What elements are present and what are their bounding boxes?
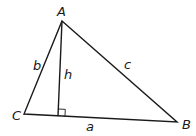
vertex-label-b: B: [182, 117, 191, 132]
vertex-label-a: A: [56, 4, 66, 19]
side-label-a: a: [86, 119, 94, 134]
triangle-abc: [24, 21, 177, 122]
altitude-label-h: h: [64, 67, 72, 82]
triangle-diagram: A B C a b c h: [0, 0, 196, 136]
side-label-c: c: [124, 57, 131, 72]
altitude-line: [58, 21, 62, 116]
vertex-label-c: C: [12, 108, 22, 123]
diagram-svg: A B C a b c h: [0, 0, 196, 136]
side-label-b: b: [33, 58, 41, 73]
